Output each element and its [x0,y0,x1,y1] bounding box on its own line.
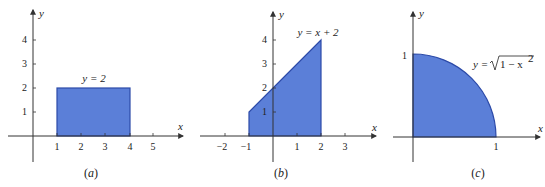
x-tick-label: 2 [79,141,84,152]
y-axis-label-b: y [278,8,284,20]
caption-a: (a) [84,166,98,180]
panel-a: 1 2 3 4 5 1 2 3 4 x y y = 2 (a) [8,7,183,180]
shaded-region-a [57,88,130,136]
y-tick-label: 1 [22,106,27,117]
y-tick-label: 3 [262,58,267,69]
x-tick-label: 2 [319,141,324,152]
x-tick-label: 5 [151,141,156,152]
y-tick-label: 2 [262,82,267,93]
x-tick-label: −1 [241,141,252,152]
x-tick-label: 4 [128,141,133,152]
y-tick-label: 4 [22,34,27,45]
equation-label-b: y = x + 2 [296,26,339,38]
x-tick-label: 3 [343,141,348,152]
x-tick-label: 1 [295,141,300,152]
shaded-region-b [249,40,321,136]
y-tick-label: 2 [22,82,27,93]
panel-b: −2 −1 1 2 3 1 2 3 4 y y = x + 2 (b) [200,8,368,180]
equation-label-a: y = 2 [81,72,106,84]
caption-c: (c) [471,166,484,180]
y-axis-label-c: y [418,7,424,19]
y-axis-label-a: y [38,7,44,19]
y-tick-label: 3 [22,58,27,69]
svg-text:1 − x: 1 − x [500,58,523,70]
x-tick-label: 1 [494,141,499,152]
svg-text:y =: y = [472,58,488,70]
x-tick-label: 3 [103,141,108,152]
x-tick-label: −2 [217,141,228,152]
y-tick-label: 1 [262,106,267,117]
y-tick-label: 4 [262,34,267,45]
x-tick-label: 1 [55,141,60,152]
x-axis-label-b: x [371,121,377,133]
y-tick-label: 1 [402,50,407,61]
caption-b: (b) [274,166,288,180]
x-axis-label-a: x [177,120,183,132]
panel-c: 1 1 x y x y = 1 − x 2 (c) [368,7,543,180]
figure-canvas: 1 2 3 4 5 1 2 3 4 x y y = 2 (a) −2 [0,0,545,187]
svg-text:2: 2 [528,52,534,64]
equation-label-c: y = 1 − x 2 [472,52,534,70]
x-axis-label-c: x [537,122,543,134]
